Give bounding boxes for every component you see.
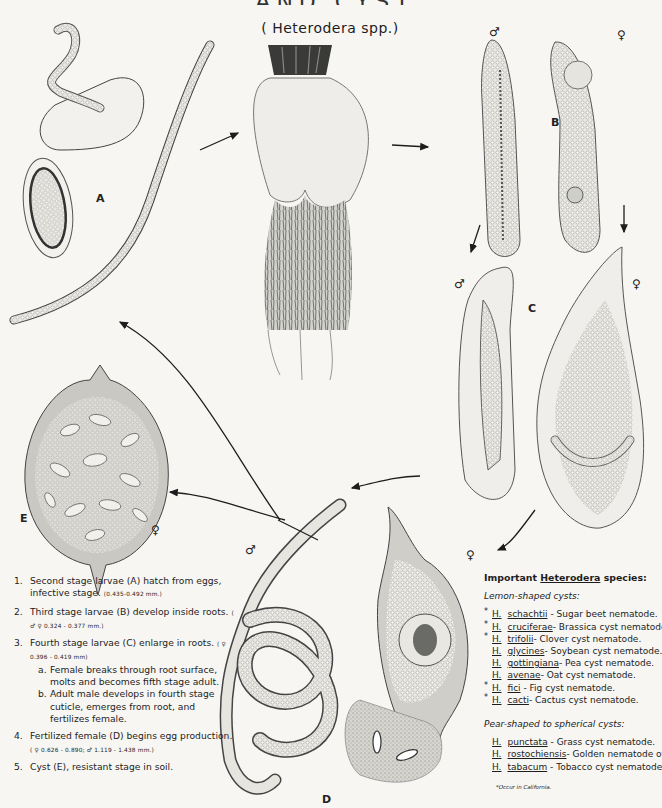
species-row: H.punctata - Grass cyst nematode. <box>484 736 662 748</box>
step-3b: b. Adult male develops in fourth stage c… <box>14 688 236 725</box>
species-row: H.avenae- Oat cyst nematode. <box>484 669 662 681</box>
arrow-d-to-e <box>170 492 285 520</box>
step-5: 5. Cyst (E), resistant stage in soil. <box>14 761 236 773</box>
species-row: H.gottingiana- Pea cyst nematode. <box>484 657 662 669</box>
female-symbol-d: ♀ <box>466 548 475 562</box>
female-symbol-e: ♀ <box>151 523 160 537</box>
species-row: *H.schachtii - Sugar beet nematode. <box>484 608 662 620</box>
figure-b-third-stage <box>482 40 600 257</box>
male-symbol-b: ♂ <box>489 25 500 39</box>
step-3a: a. Female breaks through root surface, m… <box>14 664 236 689</box>
female-symbol-c: ♀ <box>632 277 641 291</box>
arrow-b-male-to-c <box>471 225 480 252</box>
arrow-beet-to-b <box>392 145 428 147</box>
step-2: 2. Third stage larvae (B) develop inside… <box>14 606 236 633</box>
step-3: 3. Fourth stage larvae (C) enlarge in ro… <box>14 637 236 725</box>
male-symbol-d: ♂ <box>245 543 256 557</box>
life-cycle-steps: 1. Second stage larvae (A) hatch from eg… <box>14 575 236 778</box>
species-row: *H.cruciferae- Brassica cyst nematode. <box>484 621 662 633</box>
arrow-c-to-d-female <box>498 510 535 550</box>
arrow-a-to-beet <box>200 133 238 150</box>
figure-e-cyst <box>25 365 169 595</box>
footnote: *Occur in California. <box>496 781 662 793</box>
step-4: 4. Fertilized female (D) begins egg prod… <box>14 730 236 756</box>
b-male <box>482 40 520 257</box>
group-title-lemon: Lemon-shaped cysts: <box>484 590 662 602</box>
sugar-beet-root <box>254 45 369 380</box>
label-a: A <box>96 192 105 205</box>
species-panel: Important Heterodera species: Lemon-shap… <box>484 572 662 793</box>
species-row: *H.cacti- Cactus cyst nematode. <box>484 694 662 706</box>
female-symbol-b: ♀ <box>617 28 626 42</box>
group-title-pear: Pear-shaped to spherical cysts: <box>484 718 662 730</box>
label-e: E <box>20 512 28 525</box>
species-row: *H.trifolii- Clover cyst nematode. <box>484 633 662 645</box>
arrow-c-to-d-male <box>352 476 420 488</box>
label-b: B <box>551 116 559 129</box>
label-c: C <box>528 302 536 315</box>
species-row: *H.fici - Fig cyst nematode. <box>484 682 662 694</box>
figure-d-adults <box>226 505 468 788</box>
figure-c-fourth-stage <box>459 247 644 528</box>
species-row: H.tabacum - Tobacco cyst nematode. <box>484 761 662 773</box>
label-d: D <box>322 793 331 806</box>
step-1: 1. Second stage larvae (A) hatch from eg… <box>14 575 236 601</box>
male-symbol-c: ♂ <box>454 277 465 291</box>
species-heading: Important Heterodera species: <box>484 572 662 584</box>
species-row: H.glycines- Soybean cyst nematode. <box>484 645 662 657</box>
figure-a-larva-group <box>14 27 210 320</box>
species-row: H.rostochiensis- Golden nematode of <box>484 748 662 760</box>
